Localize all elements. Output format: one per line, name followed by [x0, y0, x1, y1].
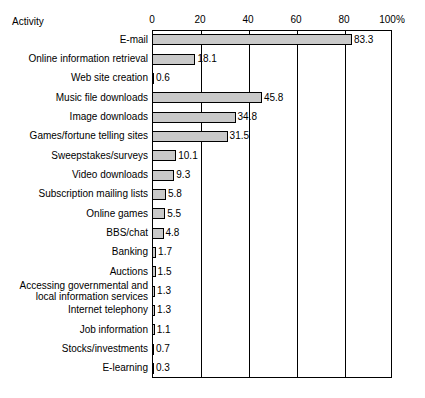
bar-value-label: 1.7 — [158, 246, 172, 257]
bar-value-label: 45.8 — [264, 92, 283, 103]
bar-value-label: 1.3 — [157, 285, 171, 296]
bar-value-label: 10.1 — [178, 150, 197, 161]
x-tick-label: 0 — [149, 14, 155, 25]
category-label: E-mail — [0, 34, 148, 45]
category-label: Games/fortune telling sites — [0, 130, 148, 141]
category-label: Music file downloads — [0, 92, 148, 103]
bar-value-label: 5.8 — [168, 188, 182, 199]
bar-value-label: 1.3 — [157, 304, 171, 315]
bar — [152, 170, 174, 181]
category-label: Auctions — [0, 266, 148, 277]
x-tick-label: 100% — [379, 14, 405, 25]
gridline — [201, 31, 202, 377]
bar-value-label: 5.5 — [167, 208, 181, 219]
bar-value-label: 34.8 — [238, 111, 257, 122]
bar — [152, 247, 156, 258]
bar — [152, 344, 154, 355]
category-label: E-learning — [0, 362, 148, 373]
bar — [152, 189, 166, 200]
category-label: Job information — [0, 324, 148, 335]
x-tick-label: 20 — [194, 14, 205, 25]
category-label: Image downloads — [0, 111, 148, 122]
bar-value-label: 83.3 — [354, 34, 373, 45]
bar-chart: Activity 020406080100%83.3E-mail18.1Onli… — [0, 0, 425, 398]
category-label: Subscription mailing lists — [0, 188, 148, 199]
category-label: Online information retrieval — [0, 53, 148, 64]
bar-value-label: 4.8 — [166, 227, 180, 238]
gridline — [345, 31, 346, 377]
category-label: BBS/chat — [0, 227, 148, 238]
bar — [152, 34, 352, 45]
category-label: Online games — [0, 208, 148, 219]
x-tick-label: 60 — [290, 14, 301, 25]
bar — [152, 228, 164, 239]
category-label: Web site creation — [0, 72, 148, 83]
bar-value-label: 18.1 — [197, 53, 216, 64]
category-label: Accessing governmental and local informa… — [0, 280, 148, 302]
category-label: Sweepstakes/surveys — [0, 150, 148, 161]
bar — [152, 92, 262, 103]
bar-value-label: 0.7 — [156, 343, 170, 354]
bar — [152, 305, 155, 316]
bar — [152, 324, 155, 335]
bar-value-label: 0.6 — [156, 72, 170, 83]
bar — [152, 208, 165, 219]
bar-value-label: 0.3 — [156, 362, 170, 373]
bar-value-label: 9.3 — [176, 169, 190, 180]
category-label: Stocks/investments — [0, 343, 148, 354]
bar — [152, 112, 236, 123]
bar — [152, 363, 154, 374]
x-tick-label: 40 — [242, 14, 253, 25]
axis-title-activity: Activity — [12, 16, 44, 27]
bar — [152, 286, 155, 297]
bar-value-label: 1.5 — [158, 266, 172, 277]
bar — [152, 266, 156, 277]
gridline — [297, 31, 298, 377]
bar — [152, 73, 154, 84]
category-label: Video downloads — [0, 169, 148, 180]
category-label: Banking — [0, 246, 148, 257]
x-tick-label: 80 — [338, 14, 349, 25]
gridline — [249, 31, 250, 377]
category-label: Internet telephony — [0, 304, 148, 315]
plot-area — [152, 30, 392, 378]
bar — [152, 54, 195, 65]
bar — [152, 150, 176, 161]
bar-value-label: 1.1 — [157, 324, 171, 335]
bar — [152, 131, 228, 142]
bar-value-label: 31.5 — [230, 130, 249, 141]
